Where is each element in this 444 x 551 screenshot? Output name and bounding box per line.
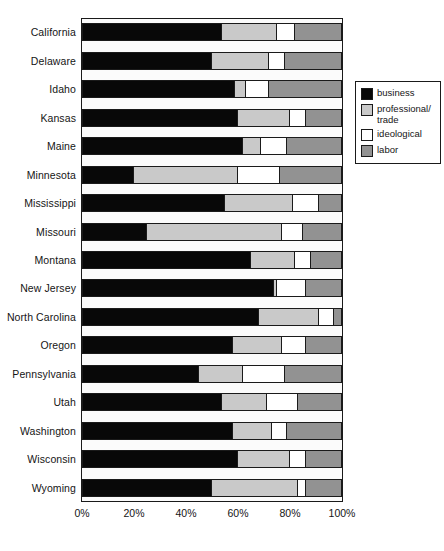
x-tick-label: 80% — [279, 506, 300, 520]
bar-segment-ideological — [267, 393, 298, 411]
bar-row — [82, 52, 342, 70]
bar-row — [82, 23, 342, 41]
bar-segment-labor — [306, 109, 342, 127]
x-tick-label: 20% — [123, 506, 144, 520]
y-axis-label: Pennsylvania — [0, 365, 76, 383]
bar-row — [82, 194, 342, 212]
bar-segment-labor — [287, 422, 342, 440]
bar-segment-ideological — [290, 450, 306, 468]
bar-row — [82, 308, 342, 326]
bar-segment-ideological — [261, 137, 287, 155]
bar-segment-professional — [251, 251, 295, 269]
bar-segment-business — [82, 365, 199, 383]
x-tick-label: 100% — [329, 506, 356, 520]
legend-label: professional/ trade — [377, 103, 431, 125]
bar-segment-professional — [212, 479, 298, 497]
bar-row — [82, 450, 342, 468]
bar-segment-business — [82, 166, 134, 184]
y-axis-label: Wyoming — [0, 479, 76, 497]
bar-row — [82, 365, 342, 383]
y-axis-label: Wisconsin — [0, 450, 76, 468]
bar-segment-professional — [233, 336, 282, 354]
y-axis-label: Idaho — [0, 80, 76, 98]
legend-swatch-ideological — [361, 129, 373, 141]
bar-segment-business — [82, 52, 212, 70]
y-axis-label: California — [0, 23, 76, 41]
y-axis-label: Montana — [0, 251, 76, 269]
y-axis-label: Washington — [0, 422, 76, 440]
bar-segment-professional — [233, 422, 272, 440]
bar-segment-business — [82, 109, 238, 127]
bar-segment-ideological — [298, 479, 306, 497]
bar-row — [82, 137, 342, 155]
bar-segment-labor — [306, 450, 342, 468]
bar-row — [82, 80, 342, 98]
bar-segment-professional — [259, 308, 319, 326]
legend-label: ideological — [377, 128, 422, 139]
bar-segment-ideological — [295, 251, 311, 269]
bar-segment-business — [82, 336, 233, 354]
legend-item: business — [361, 87, 436, 100]
bar-segment-labor — [306, 479, 342, 497]
bar-segment-ideological — [246, 80, 269, 98]
bar-row — [82, 479, 342, 497]
bar-segment-labor — [280, 166, 342, 184]
y-axis-label: Delaware — [0, 52, 76, 70]
x-tick-label: 0% — [74, 506, 89, 520]
bar-row — [82, 279, 342, 297]
bar-segment-professional — [222, 23, 277, 41]
y-axis-label: Minnesota — [0, 166, 76, 184]
bar-segment-business — [82, 279, 274, 297]
bar-segment-ideological — [272, 422, 288, 440]
bar-segment-professional — [243, 137, 261, 155]
legend-swatch-business — [361, 88, 373, 100]
bar-segment-labor — [319, 194, 342, 212]
bar-segment-business — [82, 422, 233, 440]
legend-item: professional/ trade — [361, 103, 436, 125]
bar-segment-professional — [238, 450, 290, 468]
bar-row — [82, 166, 342, 184]
y-axis-label: North Carolina — [0, 308, 76, 326]
x-tick-label: 60% — [227, 506, 248, 520]
bar-segment-business — [82, 223, 147, 241]
bar-segment-professional — [134, 166, 238, 184]
bar-row — [82, 393, 342, 411]
bar-row — [82, 109, 342, 127]
bar-segment-labor — [285, 52, 342, 70]
bar-segment-ideological — [282, 223, 303, 241]
bar-segment-business — [82, 80, 235, 98]
bar-segment-business — [82, 251, 251, 269]
bar-row — [82, 336, 342, 354]
bar-segment-ideological — [269, 52, 285, 70]
bar-segment-labor — [303, 223, 342, 241]
bar-segment-labor — [306, 336, 342, 354]
bar-segment-business — [82, 308, 259, 326]
legend-swatch-labor — [361, 145, 373, 157]
bar-segment-ideological — [290, 109, 306, 127]
y-axis-label: Utah — [0, 393, 76, 411]
y-axis-label: Maine — [0, 137, 76, 155]
bar-segment-professional — [225, 194, 293, 212]
bar-segment-professional — [222, 393, 266, 411]
y-axis-category-labels: CaliforniaDelawareIdahoKansasMaineMinnes… — [0, 18, 76, 502]
bar-segment-business — [82, 393, 222, 411]
bar-segment-ideological — [277, 279, 306, 297]
y-axis-label: Mississippi — [0, 194, 76, 212]
y-axis-label: Missouri — [0, 223, 76, 241]
bar-segment-ideological — [319, 308, 335, 326]
bar-segment-ideological — [293, 194, 319, 212]
bar-segment-business — [82, 479, 212, 497]
bar-segment-business — [82, 194, 225, 212]
bar-segment-labor — [334, 308, 342, 326]
bar-segment-professional — [238, 109, 290, 127]
bar-segment-professional — [147, 223, 282, 241]
bar-segment-business — [82, 137, 243, 155]
x-axis-tick-labels: 0%20%40%60%80%100% — [81, 506, 343, 526]
legend-item: ideological — [361, 128, 436, 141]
bar-segment-professional — [212, 52, 269, 70]
bars-layer — [81, 18, 343, 502]
legend-item: labor — [361, 144, 436, 157]
bar-row — [82, 223, 342, 241]
bar-segment-labor — [287, 137, 342, 155]
bar-row — [82, 251, 342, 269]
